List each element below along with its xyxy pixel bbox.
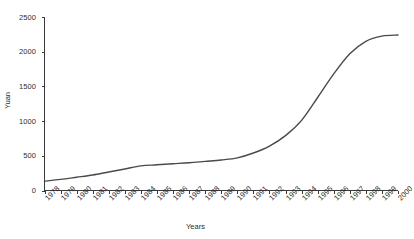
- x-axis-title: Years: [186, 222, 205, 231]
- y-tick-label: 2500: [6, 13, 36, 22]
- data-series-line: [45, 35, 399, 181]
- y-tick-label: 2000: [6, 47, 36, 56]
- y-axis-title: Yuan: [3, 83, 12, 119]
- axes: [45, 17, 399, 191]
- y-tick-label: 0: [6, 186, 36, 195]
- y-tick-label: 500: [6, 151, 36, 160]
